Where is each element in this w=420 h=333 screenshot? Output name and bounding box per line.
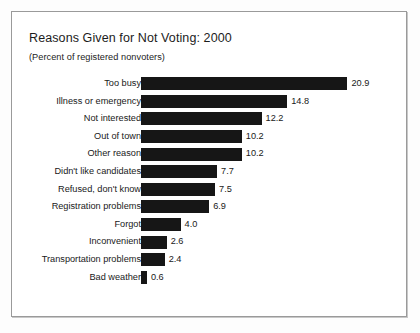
bar-value-label: 2.4: [169, 251, 182, 269]
bar: [141, 253, 165, 266]
bar-category-label: Not interested: [84, 110, 141, 128]
bar-value-label: 6.9: [213, 198, 226, 216]
bar-row: Out of town10.2: [12, 128, 406, 146]
bar-row: Registration problems6.9: [12, 198, 406, 216]
bar-value-label: 2.6: [171, 233, 184, 251]
bar: [141, 165, 217, 178]
bar: [141, 183, 215, 196]
bar: [141, 148, 242, 161]
bar-category-label: Inconvenient: [89, 233, 141, 251]
chart-subtitle: (Percent of registered nonvoters): [29, 52, 165, 62]
bar-row: Too busy20.9: [12, 75, 406, 93]
bar-category-label: Refused, don't know: [58, 181, 141, 199]
bar: [141, 271, 147, 284]
bar: [141, 95, 287, 108]
bar-category-label: Forgot: [114, 216, 141, 234]
bar-value-label: 12.2: [266, 110, 284, 128]
bar-category-label: Out of town: [94, 128, 141, 146]
chart-frame: Reasons Given for Not Voting: 2000 (Perc…: [11, 11, 407, 317]
bar-value-label: 20.9: [351, 75, 369, 93]
chart-figure: Reasons Given for Not Voting: 2000 (Perc…: [0, 0, 420, 333]
bar-row: Didn't like candidates7.7: [12, 163, 406, 181]
bar-value-label: 4.0: [185, 216, 198, 234]
bar-row: Illness or emergency14.8: [12, 93, 406, 111]
bar-value-label: 0.6: [151, 269, 164, 287]
bar-row: Transportation problems2.4: [12, 251, 406, 269]
bar-value-label: 7.7: [221, 163, 234, 181]
bar-value-label: 10.2: [246, 145, 264, 163]
bar-value-label: 10.2: [246, 128, 264, 146]
bar-category-label: Registration problems: [52, 198, 141, 216]
bar-row: Inconvenient2.6: [12, 233, 406, 251]
bar: [141, 112, 262, 125]
bar-value-label: 7.5: [219, 181, 232, 199]
bar: [141, 200, 209, 213]
bar-row: Bad weather0.6: [12, 269, 406, 287]
bar-category-label: Bad weather: [89, 269, 141, 287]
bar: [141, 236, 167, 249]
bar-row: Forgot4.0: [12, 216, 406, 234]
bar-category-label: Transportation problems: [42, 251, 141, 269]
bar-value-label: 14.8: [291, 93, 309, 111]
bar: [141, 130, 242, 143]
plot-area: Too busy20.9Illness or emergency14.8Not …: [12, 75, 406, 297]
chart-title: Reasons Given for Not Voting: 2000: [29, 31, 232, 45]
bar-row: Other reason10.2: [12, 145, 406, 163]
bar-category-label: Didn't like candidates: [54, 163, 141, 181]
bar: [141, 218, 181, 231]
bar: [141, 77, 347, 90]
bar-category-label: Too busy: [104, 75, 141, 93]
bar-category-label: Other reason: [87, 145, 141, 163]
bar-row: Not interested12.2: [12, 110, 406, 128]
bar-category-label: Illness or emergency: [56, 93, 141, 111]
bar-row: Refused, don't know7.5: [12, 181, 406, 199]
